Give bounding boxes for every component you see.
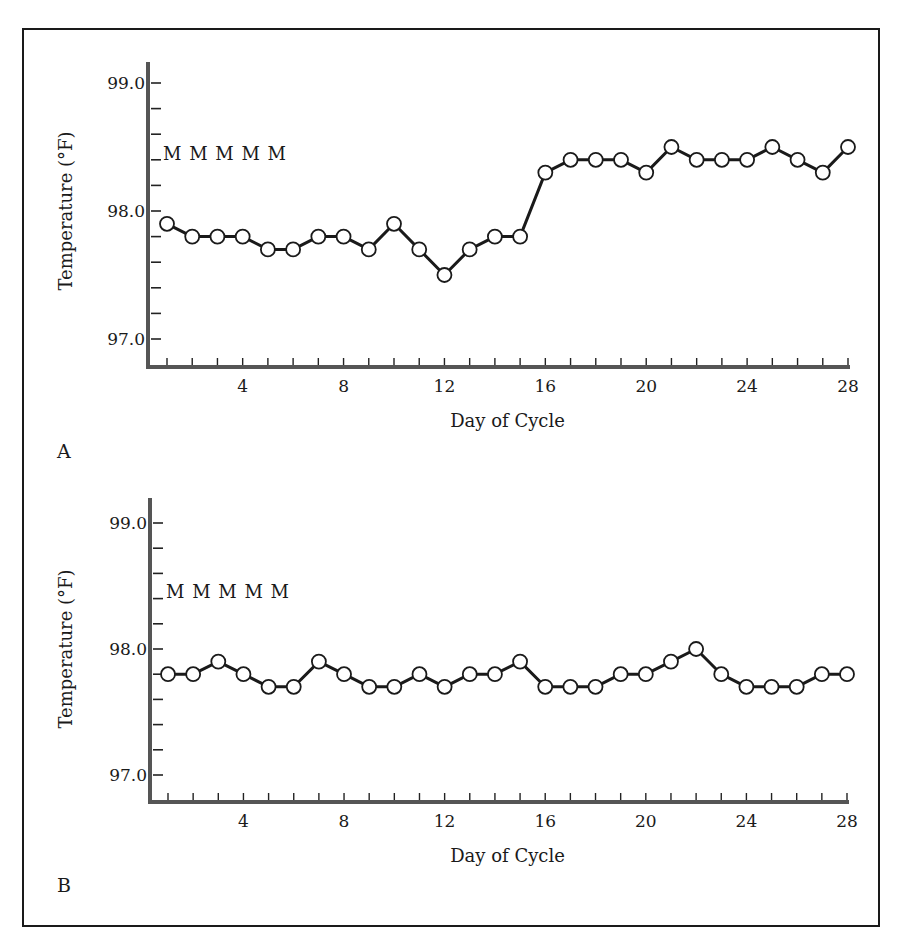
data-point-marker <box>463 667 477 681</box>
data-point-marker <box>210 230 224 244</box>
data-point-marker <box>664 655 678 669</box>
x-tick-label: 24 <box>736 811 758 831</box>
data-point-marker <box>286 242 300 256</box>
data-point-marker <box>262 680 276 694</box>
data-point-marker <box>765 680 779 694</box>
data-point-marker <box>790 680 804 694</box>
x-tick-label: 20 <box>635 376 657 396</box>
data-point-marker <box>841 140 855 154</box>
data-point-marker <box>362 680 376 694</box>
data-point-marker <box>261 242 275 256</box>
data-point-marker <box>538 166 552 180</box>
menses-annotation: M M M M M <box>163 143 287 164</box>
y-tick-label: 97.0 <box>109 765 147 785</box>
data-point-marker <box>791 153 805 167</box>
data-point-marker <box>463 242 477 256</box>
x-tick-label: 12 <box>434 376 456 396</box>
x-tick-label: 4 <box>237 376 248 396</box>
data-point-marker <box>689 642 703 656</box>
data-point-marker <box>765 140 779 154</box>
chart-panel-b: 97.098.099.0481216202428Day of CycleTemp… <box>55 498 858 866</box>
x-tick-label: 8 <box>339 811 350 831</box>
x-tick-label: 4 <box>238 811 249 831</box>
data-point-marker <box>312 655 326 669</box>
panel-label-b: B <box>57 874 71 896</box>
x-tick-label: 16 <box>534 811 556 831</box>
x-tick-label: 16 <box>535 376 557 396</box>
data-point-marker <box>739 680 753 694</box>
x-tick-label: 28 <box>837 376 859 396</box>
data-point-marker <box>513 655 527 669</box>
data-point-marker <box>185 230 199 244</box>
data-point-marker <box>161 667 175 681</box>
data-point-marker <box>563 680 577 694</box>
data-point-marker <box>412 667 426 681</box>
x-axis-title: Day of Cycle <box>450 410 565 431</box>
data-point-marker <box>387 217 401 231</box>
y-axis-title: Temperature (°F) <box>55 131 76 290</box>
x-tick-label: 28 <box>836 811 858 831</box>
y-tick-label: 98.0 <box>109 639 147 659</box>
y-tick-label: 97.0 <box>107 329 145 349</box>
data-point-marker <box>287 680 301 694</box>
data-point-marker <box>816 166 830 180</box>
data-point-marker <box>488 230 502 244</box>
data-point-marker <box>211 655 225 669</box>
y-axis-title: Temperature (°F) <box>55 569 76 728</box>
data-point-marker <box>564 153 578 167</box>
data-point-marker <box>437 268 451 282</box>
data-point-marker <box>438 680 452 694</box>
data-point-marker <box>236 230 250 244</box>
data-point-marker <box>714 667 728 681</box>
data-point-marker <box>337 230 351 244</box>
data-point-marker <box>740 153 754 167</box>
data-point-marker <box>815 667 829 681</box>
x-tick-label: 12 <box>434 811 456 831</box>
data-point-marker <box>589 680 603 694</box>
data-point-marker <box>186 667 200 681</box>
data-point-marker <box>639 667 653 681</box>
data-point-marker <box>362 242 376 256</box>
y-tick-label: 99.0 <box>109 513 147 533</box>
data-point-marker <box>387 680 401 694</box>
data-point-marker <box>589 153 603 167</box>
data-point-marker <box>488 667 502 681</box>
data-point-marker <box>513 230 527 244</box>
data-point-marker <box>337 667 351 681</box>
data-point-marker <box>715 153 729 167</box>
y-tick-label: 99.0 <box>107 73 145 93</box>
panel-label-a: A <box>57 440 71 462</box>
x-tick-label: 20 <box>635 811 657 831</box>
data-point-marker <box>538 680 552 694</box>
data-point-marker <box>639 166 653 180</box>
data-point-marker <box>614 667 628 681</box>
data-point-marker <box>664 140 678 154</box>
data-point-marker <box>614 153 628 167</box>
x-tick-label: 24 <box>736 376 758 396</box>
figure-charts: 97.098.099.0481216202428Day of CycleTemp… <box>0 0 902 950</box>
data-point-marker <box>160 217 174 231</box>
x-tick-label: 8 <box>338 376 349 396</box>
chart-panel-a: 97.098.099.0481216202428Day of CycleTemp… <box>55 62 859 431</box>
data-point-marker <box>236 667 250 681</box>
y-tick-label: 98.0 <box>107 201 145 221</box>
menses-annotation: M M M M M <box>166 581 290 602</box>
x-axis-title: Day of Cycle <box>450 845 565 866</box>
data-point-marker <box>840 667 854 681</box>
data-point-marker <box>690 153 704 167</box>
data-point-marker <box>412 242 426 256</box>
data-point-marker <box>311 230 325 244</box>
